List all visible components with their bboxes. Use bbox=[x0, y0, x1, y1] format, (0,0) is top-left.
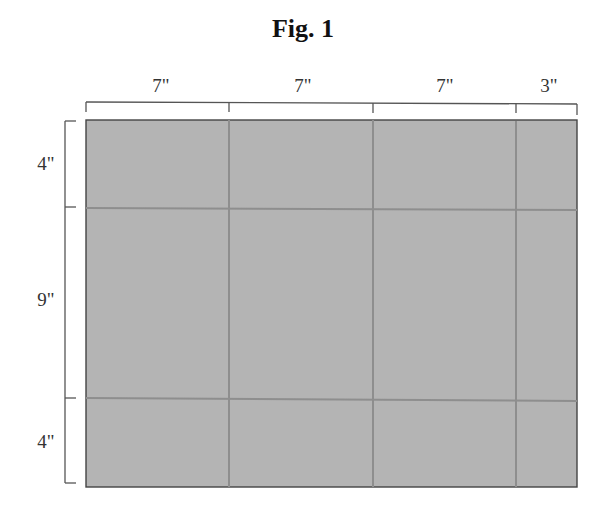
left-dimension-bracket bbox=[65, 121, 76, 483]
column-label-3: 7" bbox=[436, 75, 453, 96]
column-label-4: 3" bbox=[540, 75, 557, 96]
fabric-panel bbox=[86, 120, 577, 487]
row-label-3: 4" bbox=[37, 431, 54, 452]
top-dimension-bracket bbox=[86, 102, 577, 115]
column-label-1: 7" bbox=[152, 75, 169, 96]
row-label-1: 4" bbox=[37, 153, 54, 174]
cutting-diagram: 7" 7" 7" 3" 4" 9" 4" bbox=[0, 0, 606, 505]
column-label-2: 7" bbox=[294, 75, 311, 96]
row-label-2: 9" bbox=[37, 289, 54, 310]
